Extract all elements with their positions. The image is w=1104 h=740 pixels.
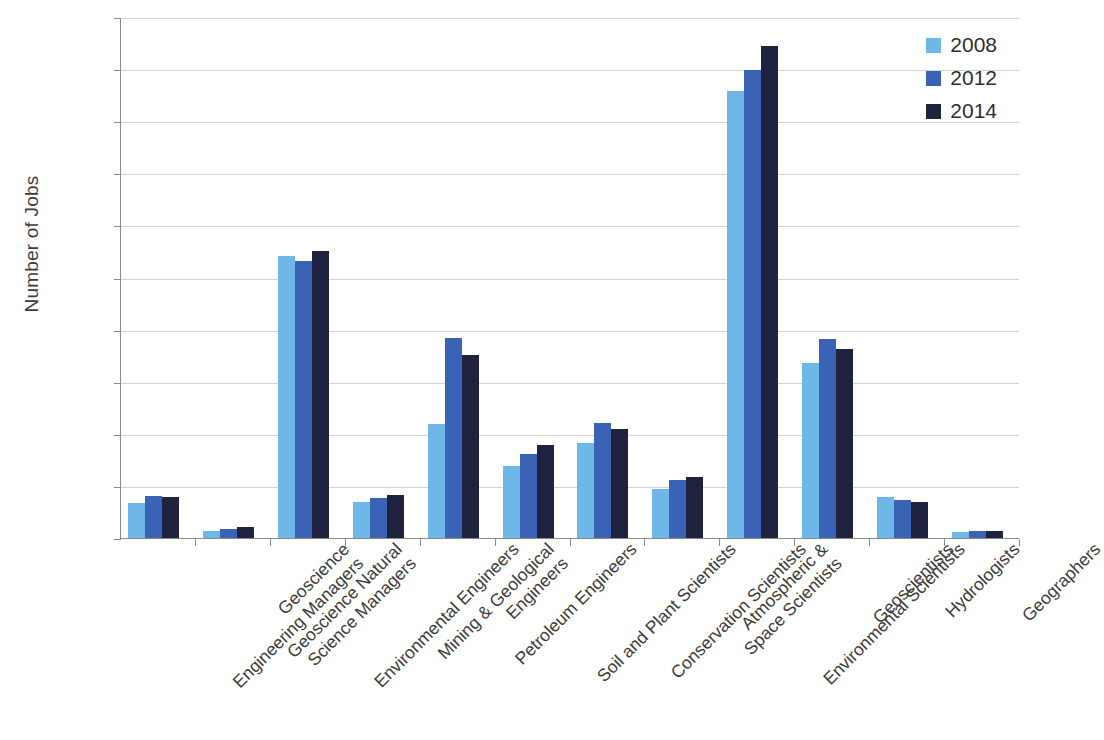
bar (162, 497, 179, 539)
bar-group (278, 18, 329, 539)
bar (727, 91, 744, 539)
bar-group (652, 18, 703, 539)
x-axis-label: Geographers (1017, 539, 1104, 626)
bar (686, 477, 703, 539)
bar-group (353, 18, 404, 539)
bar (652, 489, 669, 539)
bar-group (877, 18, 928, 539)
bar (611, 429, 628, 539)
legend-label: 2012 (950, 66, 997, 90)
bar (145, 496, 162, 539)
legend-label: 2014 (950, 99, 997, 123)
bar-group (727, 18, 778, 539)
bar-group (128, 18, 179, 539)
bar (577, 443, 594, 539)
bar (819, 339, 836, 539)
bar (744, 70, 761, 539)
bar (445, 338, 462, 539)
bar (128, 503, 145, 539)
legend-swatch (926, 71, 941, 86)
bar (761, 46, 778, 539)
bar (312, 251, 329, 539)
bar (877, 497, 894, 539)
legend-item: 2012 (926, 66, 997, 90)
bar (894, 500, 911, 539)
bar (353, 502, 370, 539)
bar (462, 355, 479, 539)
bar (669, 480, 686, 539)
bar (594, 423, 611, 539)
legend-item: 2008 (926, 33, 997, 57)
legend-swatch (926, 104, 941, 119)
legend: 200820122014 (926, 33, 997, 123)
bar-group (428, 18, 479, 539)
plot-area: 100,00090,00080,00070,00060,00050,00040,… (120, 18, 1019, 539)
legend-swatch (926, 38, 941, 53)
legend-item: 2014 (926, 99, 997, 123)
bar-group (577, 18, 628, 539)
y-axis-title: Number of Jobs (21, 114, 43, 374)
x-axis-labels: GeoscienceEngineering ManagersGeoscience… (120, 539, 1019, 740)
bar (802, 363, 819, 539)
x-tick-mark (1019, 539, 1020, 546)
bar-group (503, 18, 554, 539)
bar (503, 466, 520, 539)
bar (911, 502, 928, 539)
legend-label: 2008 (950, 33, 997, 57)
y-axis-line (120, 18, 121, 539)
bar (428, 424, 445, 539)
bar (537, 445, 554, 539)
bar (387, 495, 404, 539)
x-axis-label: Geoscientists (868, 539, 957, 628)
bar-group (203, 18, 254, 539)
bar (836, 349, 853, 539)
bar-group (802, 18, 853, 539)
bar (278, 256, 295, 539)
bar (370, 498, 387, 539)
bar (520, 454, 537, 539)
bar (295, 261, 312, 539)
